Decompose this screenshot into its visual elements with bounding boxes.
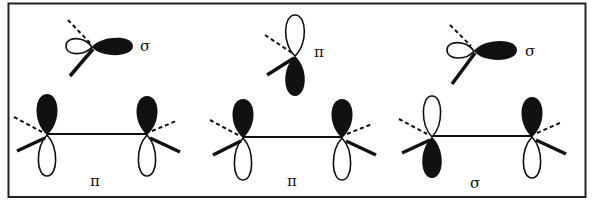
label-top-right: σ [525, 42, 535, 60]
label-pair-1: π [90, 172, 100, 190]
label-pair-3: σ [470, 174, 480, 192]
label-top-middle: π [314, 43, 324, 61]
orbital-top-left: σ [66, 20, 150, 76]
label-pair-2: π [287, 172, 297, 190]
label-top-left: σ [140, 37, 150, 55]
orbital-top-middle: π [265, 15, 324, 96]
orbital-pair-2: π [210, 99, 376, 190]
orbital-diagram: σ π σ π [0, 0, 592, 204]
orbital-pair-3: σ [399, 96, 566, 192]
orbital-pair-1: π [14, 94, 180, 190]
orbital-top-right: σ [447, 25, 535, 84]
